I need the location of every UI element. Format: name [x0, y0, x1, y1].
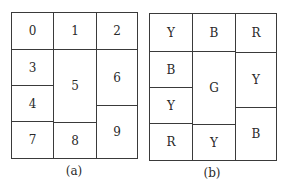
caption-a: (a) — [54, 164, 94, 178]
region-6: 6 — [96, 49, 138, 106]
region-5: 5 — [53, 49, 97, 123]
region-3: 3 — [11, 49, 54, 86]
region-7-color: R — [149, 123, 193, 161]
region-3-color: B — [149, 51, 193, 88]
region-7: 7 — [11, 121, 54, 159]
region-8-color: Y — [192, 124, 236, 161]
region-8: 8 — [53, 122, 97, 159]
region-4: 4 — [11, 85, 54, 122]
caption-b: (b) — [192, 166, 232, 180]
region-0: 0 — [11, 12, 54, 50]
region-1: 1 — [53, 12, 97, 50]
region-4-color: Y — [149, 87, 193, 124]
region-2: 2 — [96, 12, 138, 50]
region-2-color: R — [235, 13, 277, 53]
region-9: 9 — [96, 105, 138, 159]
panel-b-coloring-map: Y B R B Y G Y R Y B — [149, 13, 277, 161]
region-5-color: G — [192, 51, 236, 125]
region-6-color: Y — [235, 52, 277, 108]
region-9-color: B — [235, 107, 277, 161]
region-0-color: Y — [149, 13, 193, 52]
region-1-color: B — [192, 13, 236, 52]
panel-a-region-map: 0 1 2 3 4 5 6 7 8 9 — [11, 12, 138, 159]
